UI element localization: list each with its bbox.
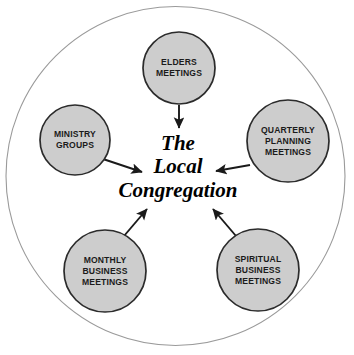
node-quarterly-planning-meetings-label-line-1: QUARTERLY: [261, 125, 315, 135]
center-title-line-1: The: [161, 131, 195, 155]
diagram-canvas: ELDERS MEETINGS MINISTRY GROUPS QUARTERL…: [0, 0, 354, 355]
node-quarterly-planning-meetings[interactable]: QUARTERLY PLANNING MEETINGS: [247, 100, 329, 182]
node-elders-meetings[interactable]: ELDERS MEETINGS: [143, 32, 215, 104]
node-spiritual-business-meetings-label-line-3: MEETINGS: [235, 276, 281, 286]
node-monthly-business-meetings[interactable]: MONTHLY BUSINESS MEETINGS: [64, 230, 146, 312]
node-quarterly-planning-meetings-label-line-3: MEETINGS: [265, 147, 311, 157]
node-spiritual-business-meetings-label-line-1: SPIRITUAL: [235, 254, 282, 264]
node-quarterly-planning-meetings-label-line-2: PLANNING: [265, 136, 311, 146]
node-monthly-business-meetings-label-line-3: MEETINGS: [82, 277, 128, 287]
node-monthly-business-meetings-label-line-2: BUSINESS: [82, 266, 127, 276]
node-elders-meetings-label-line-2: MEETINGS: [156, 68, 202, 78]
node-spiritual-business-meetings-label-line-2: BUSINESS: [235, 265, 280, 275]
node-ministry-groups[interactable]: MINISTRY GROUPS: [40, 105, 110, 175]
node-ministry-groups-label-line-1: MINISTRY: [54, 129, 96, 139]
node-elders-meetings-label-line-1: ELDERS: [161, 57, 197, 67]
center-title-line-2: Local: [153, 154, 203, 178]
node-ministry-groups-label-line-2: GROUPS: [56, 140, 94, 150]
center-title-line-3: Congregation: [118, 178, 237, 202]
node-monthly-business-meetings-label-line-1: MONTHLY: [84, 255, 127, 265]
node-spiritual-business-meetings[interactable]: SPIRITUAL BUSINESS MEETINGS: [217, 229, 299, 311]
diagram-svg: ELDERS MEETINGS MINISTRY GROUPS QUARTERL…: [0, 0, 354, 355]
